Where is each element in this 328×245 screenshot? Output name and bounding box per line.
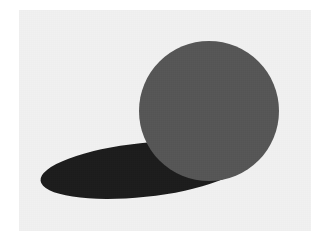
scene-vector bbox=[19, 10, 311, 231]
sphere bbox=[139, 41, 279, 181]
image-stage: A large medium-gray circle in the upper … bbox=[0, 0, 328, 245]
image-alt-text: A large medium-gray circle in the upper … bbox=[0, 0, 1, 1]
picture-plate bbox=[19, 10, 311, 231]
